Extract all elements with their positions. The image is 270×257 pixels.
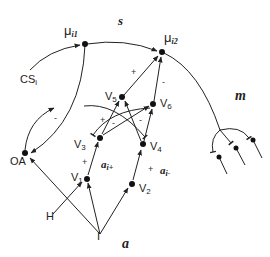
edge-m-branch-3 [220, 129, 249, 138]
node-v5 [119, 94, 125, 100]
node-v4 [140, 141, 146, 147]
node-m-out-1 [217, 155, 222, 160]
node-v1 [84, 176, 90, 182]
edge-v4-v6 [144, 109, 152, 141]
edge-m-out-2 [236, 148, 245, 165]
edge-m-branch-2 [220, 130, 231, 143]
region-label-m: m [235, 89, 246, 103]
sign-v5-mu2: + [131, 68, 136, 77]
sign-oa: - [54, 114, 57, 123]
edge-v2-v4 [133, 150, 141, 180]
edge-m-out-3 [253, 140, 262, 158]
label-mu1: μi1 [64, 24, 78, 39]
circuit-diagram [0, 0, 270, 257]
label-cs: CSi [20, 74, 37, 87]
node-m-out-2 [234, 146, 239, 151]
label-oa: OA [10, 156, 26, 167]
label-ai-minus: ai- [160, 165, 170, 178]
node-m-out-3 [251, 138, 256, 143]
edge-mu2-m [164, 53, 220, 130]
label-v3: V3 [74, 139, 86, 152]
node-v2 [129, 181, 135, 187]
edge-cs-mu1 [30, 45, 80, 70]
edge-i-v2 [100, 188, 128, 234]
label-v2: V2 [139, 183, 151, 196]
edge-oa-up [25, 108, 54, 150]
label-v4: V4 [150, 141, 162, 154]
edge-m-out-1 [219, 157, 227, 174]
edge-v6-mu2 [154, 57, 161, 101]
edge-mu1-mu2 [87, 42, 157, 51]
edge-v3-v6 [103, 106, 149, 135]
label-ai-plus: ai+ [101, 159, 113, 172]
sign-v2-v4: + [148, 165, 153, 174]
label-v6: V6 [160, 98, 172, 111]
sign-v3-v6: - [112, 119, 115, 128]
sign-v1-v3: + [82, 158, 87, 167]
region-label-a: a [122, 237, 129, 251]
edge-v5-mu2 [124, 56, 158, 95]
node-v3 [97, 135, 103, 141]
label-i: I [97, 231, 100, 242]
label-v5: V5 [105, 91, 117, 104]
sign-v4-v5: - [139, 116, 142, 125]
edge-m-branch-1 [212, 130, 220, 152]
node-mu2 [159, 49, 165, 55]
label-h: H [46, 211, 54, 222]
edge-i-v1 [88, 183, 100, 234]
region-label-s: s [118, 14, 123, 27]
edge-v1-v3 [88, 142, 98, 175]
label-mu2: μi2 [164, 31, 178, 46]
sign-v3-v5: + [100, 116, 105, 125]
node-mu1 [82, 41, 88, 47]
label-v1: V1 [71, 172, 83, 185]
sign-v6-mu2: - [162, 78, 165, 87]
node-v6 [150, 101, 156, 107]
